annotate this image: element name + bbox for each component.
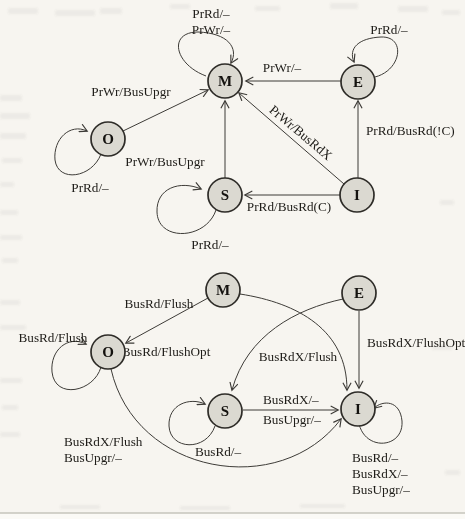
state-m-top: M [208, 64, 242, 98]
label-i-self-2: BusRdX/– [352, 466, 408, 481]
state-s-bottom: S [208, 394, 242, 428]
label-e-to-i: BusRdX/FlushOpt [367, 335, 465, 350]
state-i-label: I [354, 187, 360, 203]
bus-transition-diagram: BusRd/Flush BusRd/Flush BusRd/FlushOpt B… [19, 273, 465, 497]
state-m-bottom: M [206, 273, 240, 307]
label-i-to-e: PrRd/BusRd(!C) [366, 123, 455, 138]
state-i-label: I [355, 401, 361, 417]
label-i-self-1: BusRd/– [352, 450, 399, 465]
state-e-label: E [354, 285, 364, 301]
state-e-top: E [341, 65, 375, 99]
label-s-self: BusRd/– [195, 444, 242, 459]
label-i-self-3: BusUpgr/– [352, 482, 410, 497]
state-s-top: S [208, 178, 242, 212]
state-o-label: O [102, 344, 114, 360]
label-o-self: BusRd/Flush [19, 330, 88, 345]
label-o-to-i-1: BusRdX/Flush [64, 434, 143, 449]
label-i-to-s: PrRd/BusRd(C) [247, 199, 331, 214]
state-o-label: O [102, 131, 114, 147]
state-i-bottom: I [341, 392, 375, 426]
label-m-to-i: BusRdX/Flush [259, 349, 338, 364]
state-m-label: M [218, 73, 232, 89]
state-o-top: O [91, 122, 125, 156]
label-m-self-2: PrWr/– [192, 22, 231, 37]
label-o-to-i-2: BusUpgr/– [64, 450, 122, 465]
state-e-bottom: E [342, 276, 376, 310]
label-o-to-m: PrWr/BusUpgr [91, 84, 171, 99]
edge-i-to-m [239, 93, 344, 184]
state-m-label: M [216, 282, 230, 298]
state-i-top: I [340, 178, 374, 212]
processor-transition-diagram: PrRd/– PrWr/– PrRd/– PrWr/– PrWr/BusUpgr… [55, 6, 455, 252]
label-s-to-i-1: BusRdX/– [263, 392, 319, 407]
label-m-self-1: PrRd/– [192, 6, 230, 21]
state-s-label: S [221, 403, 229, 419]
state-o-bottom: O [91, 335, 125, 369]
moesi-state-diagrams: PrRd/– PrWr/– PrRd/– PrWr/– PrWr/BusUpgr… [0, 0, 465, 519]
page-bottom-band [0, 514, 465, 519]
label-s-self: PrRd/– [191, 237, 229, 252]
label-o-self: PrRd/– [71, 180, 109, 195]
label-i-to-m: PrWr/BusRdX [267, 102, 336, 163]
label-e-self: PrRd/– [370, 22, 408, 37]
state-s-label: S [221, 187, 229, 203]
edge-e-to-s [232, 299, 343, 390]
scanned-book-page: PrRd/– PrWr/– PrRd/– PrWr/– PrWr/BusUpgr… [0, 0, 465, 519]
edge-s-self-loop [157, 185, 216, 233]
edge-m-to-i [240, 294, 347, 390]
state-e-label: E [353, 74, 363, 90]
label-s-to-i-2: BusUpgr/– [263, 412, 321, 427]
label-s-to-m: PrWr/BusUpgr [125, 154, 205, 169]
label-e-to-s: BusRd/FlushOpt [122, 344, 211, 359]
label-m-to-o: BusRd/Flush [125, 296, 194, 311]
label-e-to-m: PrWr/– [263, 60, 302, 75]
